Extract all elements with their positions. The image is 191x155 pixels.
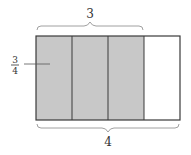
unshaded-part-4 (144, 36, 180, 120)
fraction-diagram: 3 3 4 4 (0, 0, 191, 155)
bottom-brace-label: 4 (104, 135, 112, 149)
top-brace-label: 3 (86, 7, 94, 21)
fraction-denominator: 4 (12, 66, 18, 76)
bottom-brace (37, 124, 179, 132)
shaded-part-1 (36, 36, 72, 120)
fraction-numerator: 3 (12, 55, 18, 65)
top-brace (37, 22, 143, 30)
shaded-part-2 (72, 36, 108, 120)
shaded-part-3 (108, 36, 144, 120)
